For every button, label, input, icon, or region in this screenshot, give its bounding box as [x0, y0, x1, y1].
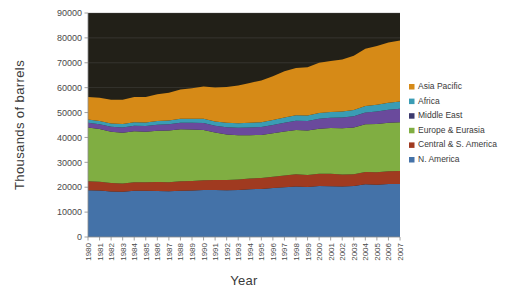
x-tick-label: 1981 — [96, 242, 105, 260]
x-tick-label: 2000 — [315, 242, 324, 260]
x-tick-label: 1999 — [304, 242, 313, 260]
x-tick-label: 2004 — [361, 242, 370, 260]
x-tick-label: 1988 — [176, 242, 185, 260]
x-tick-label: 2007 — [396, 242, 405, 260]
x-tick-label: 1995 — [257, 242, 266, 260]
legend-label-central-s-america: Central & S. America — [418, 139, 497, 149]
y-tick-label: 10000 — [57, 207, 82, 217]
legend-label-asia-pacific: Asia Pacific — [418, 81, 463, 91]
x-tick-label: 2002 — [338, 242, 347, 260]
x-tick-label: 1997 — [280, 242, 289, 260]
legend-swatch-central-s-america — [409, 142, 415, 148]
legend-swatch-n-america — [409, 157, 415, 163]
x-tick-label: 2001 — [327, 242, 336, 260]
y-tick-label: 70000 — [57, 58, 82, 68]
area-band-n-america — [88, 184, 400, 237]
x-tick-label: 1994 — [246, 242, 255, 260]
y-tick-label: 50000 — [57, 108, 82, 118]
legend-swatch-middle-east — [409, 113, 415, 119]
x-tick-label: 1980 — [84, 242, 93, 260]
x-tick-label: 1984 — [130, 242, 139, 260]
x-tick-label: 1983 — [119, 242, 128, 260]
x-tick-label: 1992 — [223, 242, 232, 260]
legend-label-africa: Africa — [418, 96, 440, 106]
x-axis-title: Year — [230, 273, 258, 288]
legend-swatch-asia-pacific — [409, 84, 415, 90]
x-tick-label: 1986 — [153, 242, 162, 260]
x-tick-label: 1993 — [234, 242, 243, 260]
y-tick-label: 90000 — [57, 8, 82, 18]
y-tick-label: 40000 — [57, 133, 82, 143]
x-tick-label: 1998 — [292, 242, 301, 260]
y-axis-title: Thousands of barrels — [12, 60, 27, 190]
x-tick-label: 1990 — [200, 242, 209, 260]
x-tick-label: 1989 — [188, 242, 197, 260]
legend-swatch-africa — [409, 99, 415, 105]
x-tick-label: 1996 — [269, 242, 278, 260]
x-tick-label: 1985 — [142, 242, 151, 260]
x-tick-label: 2005 — [373, 242, 382, 260]
x-tick-label: 2003 — [350, 242, 359, 260]
x-tick-label: 2006 — [384, 242, 393, 260]
legend-label-europe-eurasia: Europe & Eurasia — [418, 125, 485, 135]
y-tick-label: 30000 — [57, 158, 82, 168]
legend-label-n-america: N. America — [418, 154, 460, 164]
y-tick-label: 20000 — [57, 182, 82, 192]
y-tick-label: 60000 — [57, 83, 82, 93]
y-tick-label: 80000 — [57, 33, 82, 43]
x-tick-label: 1987 — [165, 242, 174, 260]
x-tick-label: 1991 — [211, 242, 220, 260]
legend-swatch-europe-eurasia — [409, 128, 415, 134]
area-chart: Thousands of barrels 0100002000030000400… — [0, 0, 515, 291]
y-tick-label: 0 — [77, 232, 82, 242]
x-tick-label: 1982 — [107, 242, 116, 260]
legend-label-middle-east: Middle East — [418, 110, 463, 120]
